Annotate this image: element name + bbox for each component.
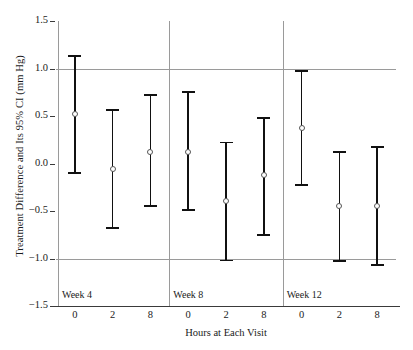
estimate-marker	[223, 198, 229, 204]
y-tick-label: 0.0	[0, 157, 48, 171]
x-tick-label: 8	[138, 309, 162, 320]
error-bar-cap-lower	[333, 260, 346, 262]
x-tick-label: 0	[290, 309, 314, 320]
y-tick-label-text: −0.5	[4, 204, 48, 215]
estimate-marker	[110, 166, 116, 172]
group-label-week-8: Week 8	[173, 289, 203, 300]
error-bar-cap-lower	[295, 184, 308, 186]
x-tick-label: 0	[63, 309, 87, 320]
x-axis-line	[52, 306, 400, 307]
y-tick-label-text: −1.5	[4, 299, 48, 310]
y-tick-label-text: 1.5	[4, 14, 48, 25]
y-tick-label: 0.5	[0, 109, 48, 123]
group-label-week-4: Week 4	[62, 289, 92, 300]
group-separator	[58, 21, 59, 306]
y-tick-label: −1.0	[0, 252, 48, 266]
y-tick-label-text: 0.5	[4, 109, 48, 120]
y-tick-mark	[50, 211, 55, 212]
estimate-marker	[147, 149, 153, 155]
group-label-week-12: Week 12	[287, 289, 322, 300]
y-tick-label: −1.5	[0, 299, 48, 313]
error-bar-cap-upper	[371, 146, 384, 148]
error-bar-cap-upper	[106, 109, 119, 111]
reference-line	[56, 69, 396, 70]
estimate-marker	[72, 111, 78, 117]
error-bar-cap-upper	[68, 55, 81, 57]
y-tick-label: −0.5	[0, 204, 48, 218]
estimate-marker	[374, 203, 380, 209]
y-tick-label-text: 1.0	[4, 62, 48, 73]
x-tick-label: 0	[176, 309, 200, 320]
error-bar-cap-upper	[182, 91, 195, 93]
y-tick-label: 1.5	[0, 14, 48, 28]
y-tick-mark	[50, 259, 55, 260]
estimate-marker	[299, 125, 305, 131]
group-separator	[169, 21, 170, 306]
y-tick-mark	[50, 21, 55, 22]
y-tick-mark	[50, 164, 55, 165]
error-bar-cap-upper	[220, 142, 233, 144]
y-tick-label-text: 0.0	[4, 157, 48, 168]
error-bar-cap-lower	[182, 209, 195, 211]
plot-area: Week 4Week 8Week 12	[56, 21, 396, 306]
x-tick-label: 8	[252, 309, 276, 320]
chart-figure: Treatment Difference and Its 95% CI (mm …	[0, 0, 413, 350]
y-tick-label-text: −1.0	[4, 252, 48, 263]
error-bar-cap-lower	[106, 227, 119, 229]
y-tick-mark	[50, 116, 55, 117]
estimate-marker	[336, 203, 342, 209]
y-tick-mark	[50, 69, 55, 70]
x-tick-label: 2	[327, 309, 351, 320]
x-tick-label: 2	[101, 309, 125, 320]
x-tick-label: 2	[214, 309, 238, 320]
x-axis-title: Hours at Each Visit	[56, 327, 396, 338]
error-bar-cap-upper	[144, 94, 157, 96]
estimate-marker	[261, 172, 267, 178]
y-tick-label: 1.0	[0, 62, 48, 76]
estimate-marker	[185, 149, 191, 155]
error-bar-cap-upper	[295, 70, 308, 72]
error-bar-cap-upper	[333, 151, 346, 153]
error-bar-cap-lower	[371, 264, 384, 266]
error-bar-cap-upper	[257, 117, 270, 119]
error-bar-cap-lower	[144, 205, 157, 207]
error-bar-cap-lower	[257, 234, 270, 236]
group-separator	[283, 21, 284, 306]
error-bar-cap-lower	[220, 260, 233, 262]
x-tick-label: 8	[365, 309, 389, 320]
error-bar-cap-lower	[68, 172, 81, 174]
